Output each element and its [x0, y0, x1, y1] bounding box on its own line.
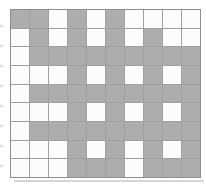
grid-cell-empty — [11, 85, 29, 103]
page-edge-mark — [0, 25, 3, 27]
grid-cell-empty — [125, 10, 143, 28]
grid-cell-filled — [68, 47, 86, 65]
grid-cell-empty — [49, 141, 67, 159]
grid-cell-empty — [163, 103, 181, 121]
grid-cell-empty — [182, 29, 200, 47]
page: { "grid": { "columns": 10, "rows": 9, "f… — [0, 0, 206, 185]
grid-cell-filled — [144, 85, 162, 103]
grid-cell-filled — [182, 47, 200, 65]
grid-cell-filled — [106, 141, 124, 159]
grid-cell-empty — [11, 141, 29, 159]
grid-cell-filled — [144, 47, 162, 65]
grid-cell-filled — [87, 122, 105, 140]
page-edge-mark — [0, 165, 3, 167]
grid-cell-filled — [163, 47, 181, 65]
grid-cell-filled — [106, 47, 124, 65]
grid-cell-empty — [163, 29, 181, 47]
grid-cell-empty — [11, 122, 29, 140]
grid-cell-filled — [163, 85, 181, 103]
grid-cell-filled — [106, 159, 124, 177]
grid-cell-empty — [125, 103, 143, 121]
grid-cell-filled — [163, 122, 181, 140]
grid-cell-filled — [68, 10, 86, 28]
grid-cell-filled — [106, 103, 124, 121]
grid-cell-empty — [11, 29, 29, 47]
grid-cell-filled — [68, 159, 86, 177]
grid-cell-filled — [182, 66, 200, 84]
grid-shadow — [14, 180, 204, 182]
grid-cell-filled — [68, 29, 86, 47]
grid-cell-empty — [49, 66, 67, 84]
grid-cell-filled — [11, 10, 29, 28]
page-edge-mark — [0, 105, 3, 107]
grid-cell-filled — [144, 122, 162, 140]
grid-cell-filled — [182, 103, 200, 121]
grid-cell-filled — [106, 122, 124, 140]
grid-cell-empty — [49, 10, 67, 28]
grid-cell-empty — [144, 10, 162, 28]
grid-cell-empty — [49, 29, 67, 47]
grid-cell-filled — [106, 66, 124, 84]
grid-cell-empty — [182, 10, 200, 28]
grid-cell-filled — [49, 47, 67, 65]
grid-cell-filled — [144, 141, 162, 159]
grid-cell-filled — [49, 122, 67, 140]
grid-cell-filled — [182, 85, 200, 103]
grid-cell-filled — [163, 159, 181, 177]
grid-cell-empty — [30, 159, 48, 177]
grid-cell-empty — [163, 66, 181, 84]
grid-cell-filled — [30, 122, 48, 140]
grid-cell-empty — [11, 103, 29, 121]
grid-cell-filled — [144, 103, 162, 121]
grid-cell-filled — [182, 122, 200, 140]
grid-cell-filled — [144, 29, 162, 47]
page-edge-mark — [0, 125, 3, 127]
grid-cell-filled — [30, 10, 48, 28]
grid-cell-filled — [125, 85, 143, 103]
grid-cell-filled — [30, 85, 48, 103]
grid-cell-filled — [68, 85, 86, 103]
grid-cell-empty — [11, 47, 29, 65]
grid-cell-filled — [182, 159, 200, 177]
page-edge-mark — [0, 85, 3, 87]
grid-cell-empty — [49, 103, 67, 121]
grid-cell-empty — [125, 141, 143, 159]
grid-cell-empty — [125, 66, 143, 84]
grid-cell-filled — [87, 47, 105, 65]
grid-cell-filled — [106, 85, 124, 103]
grid-cell-empty — [49, 159, 67, 177]
grid-cell-empty — [11, 159, 29, 177]
grid-cell-empty — [163, 10, 181, 28]
grid-cell-empty — [11, 66, 29, 84]
grid-cell-empty — [87, 10, 105, 28]
grid-cell-filled — [87, 159, 105, 177]
grid-cell-empty — [87, 66, 105, 84]
grid-cell-empty — [163, 141, 181, 159]
grid-cell-filled — [49, 85, 67, 103]
grid-cell-filled — [87, 85, 105, 103]
grid-cell-filled — [144, 66, 162, 84]
grid-cell-filled — [125, 47, 143, 65]
page-edge-mark — [0, 145, 3, 147]
grid-cell-filled — [125, 122, 143, 140]
page-edge-mark — [0, 65, 3, 67]
grid-cell-empty — [87, 29, 105, 47]
grid-cell-filled — [68, 103, 86, 121]
grid-cell-empty — [30, 103, 48, 121]
grid-cell-filled — [30, 29, 48, 47]
grid-cell-empty — [87, 141, 105, 159]
grid-cell-empty — [125, 159, 143, 177]
page-edge-mark — [0, 45, 3, 47]
grid-cell-filled — [30, 47, 48, 65]
grid-cell-filled — [68, 122, 86, 140]
grid-cell-filled — [144, 159, 162, 177]
grid-cell-empty — [30, 66, 48, 84]
grid-cell-empty — [125, 29, 143, 47]
grid-cell-filled — [68, 141, 86, 159]
grid-cell-filled — [182, 141, 200, 159]
grid-cell-empty — [87, 103, 105, 121]
grid-cell-filled — [106, 10, 124, 28]
pattern-grid — [10, 9, 201, 178]
grid-cell-filled — [68, 66, 86, 84]
grid-cell-empty — [30, 141, 48, 159]
